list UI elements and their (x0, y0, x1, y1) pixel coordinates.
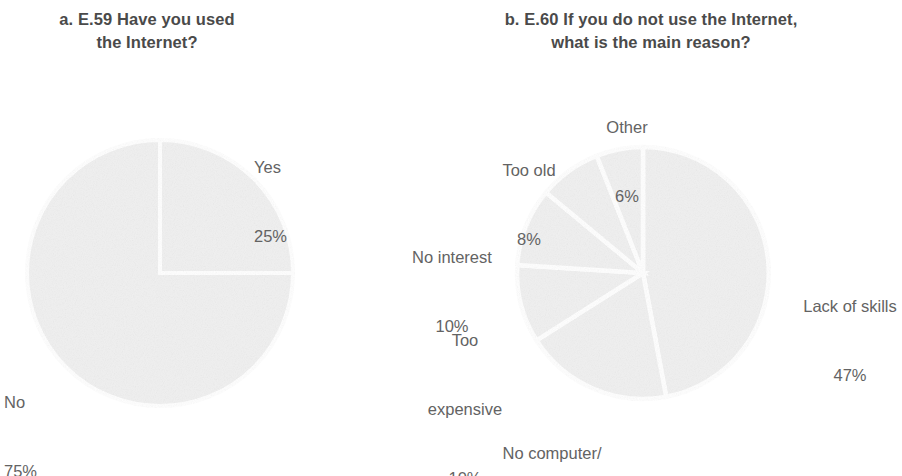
chart-a-title-line-2: the Internet? (0, 31, 312, 54)
pie-b-label-too-expensive-line-1: Too (410, 329, 520, 352)
pie-a-label-no: No 75% (4, 345, 37, 476)
chart-a-title: a. E.59 Have you used the Internet? (0, 8, 312, 54)
pie-a-label-yes-name: Yes (254, 156, 287, 179)
pie-a-label-no-name: No (4, 391, 37, 414)
pie-b-label-no-computer-facilities: No computer/ facilities 19% (452, 396, 652, 476)
pie-b-label-too-old-name: Too old (474, 159, 584, 182)
pie-b-label-no-computer-line-1: No computer/ (452, 442, 652, 465)
chart-a-title-line-1: a. E.59 Have you used (0, 8, 312, 31)
pie-b-label-no-interest-name: No interest (397, 246, 507, 269)
chart-b-title-line-2: what is the main reason? (400, 31, 902, 54)
pie-b-label-other: Other 6% (572, 70, 682, 254)
pie-b-label-other-value: 6% (572, 185, 682, 208)
pie-a-label-yes: Yes 25% (254, 110, 287, 294)
pie-a-label-no-value: 75% (4, 460, 37, 476)
pie-a-label-yes-value: 25% (254, 225, 287, 248)
chart-b-title-line-1: b. E.60 If you do not use the Internet, (400, 8, 902, 31)
pie-b-label-lack-of-skills-value: 47% (785, 364, 902, 387)
pie-b-label-other-name: Other (572, 116, 682, 139)
chart-b-title: b. E.60 If you do not use the Internet, … (400, 8, 902, 54)
pie-b-label-lack-of-skills: Lack of skills 47% (785, 249, 902, 433)
chart-panel-a: a. E.59 Have you used the Internet? Yes … (0, 0, 400, 476)
pie-b-label-lack-of-skills-name: Lack of skills (785, 295, 902, 318)
chart-panel-b: b. E.60 If you do not use the Internet, … (400, 0, 902, 476)
